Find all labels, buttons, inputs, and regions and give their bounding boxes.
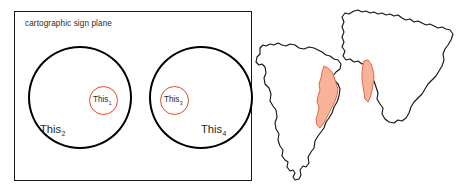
set-label-this4: This4 [201, 124, 226, 135]
set-label-this2: This2 [40, 124, 65, 135]
set-label-this3-text: This [164, 95, 179, 104]
set-label-this1: This1 [93, 96, 111, 104]
map-africa [340, 2, 475, 152]
set-label-this1-subscript: 1 [109, 100, 112, 106]
panel-title: cartographic sign plane [25, 19, 112, 28]
set-label-this2-text: This [40, 123, 61, 135]
set-label-this1-text: This [93, 95, 108, 104]
set-label-this2-subscript: 2 [62, 130, 66, 137]
africa-outline [342, 10, 453, 123]
diagram-canvas: cartographic sign plane This1 This3 This… [0, 0, 475, 194]
cartographic-sign-plane-panel: cartographic sign plane This1 This3 This… [14, 11, 252, 181]
africa-highlight-region [362, 60, 374, 102]
set-label-this3-subscript: 3 [180, 100, 183, 106]
set-label-this3: This3 [164, 96, 182, 104]
set-label-this4-text: This [201, 123, 222, 135]
set-label-this4-subscript: 4 [223, 130, 227, 137]
